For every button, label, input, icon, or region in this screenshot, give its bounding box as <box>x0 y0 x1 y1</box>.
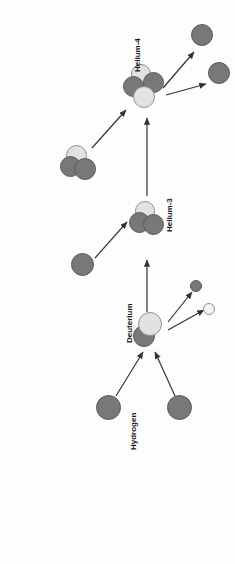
proton-icon <box>74 158 96 180</box>
arrow-hydrogen-mid-to-helium3 <box>95 222 127 258</box>
emitted-proton-2-icon <box>208 62 230 84</box>
nucleus-hydrogen-right <box>167 395 192 420</box>
fusion-diagram: Helium-4 Helium-3 Deuterium Hydrogen Pos… <box>0 0 235 564</box>
arrow-helium4-to-proton-1 <box>163 52 194 88</box>
legend: Positron Neutrino Proton (Hydrogen) Neut… <box>0 330 80 564</box>
arrow-hydrogen-right-to-deuterium <box>155 352 175 396</box>
neutron-icon <box>138 312 162 336</box>
emitted-proton-1-icon <box>191 24 213 46</box>
nucleus-hydrogen-left <box>96 395 121 420</box>
label-helium3: Helium-3 <box>166 198 174 232</box>
label-hydrogen: Hydrogen <box>130 413 138 450</box>
emitted-positron-icon <box>190 280 202 292</box>
neutron-icon <box>133 86 155 108</box>
arrow-deuterium-to-neutrino <box>168 310 204 330</box>
arrow-helium4-to-proton-2 <box>166 84 206 95</box>
arrow-deuterium-to-positron <box>168 292 192 322</box>
proton-icon <box>143 214 164 235</box>
label-helium4: Helium-4 <box>134 38 142 72</box>
arrow-helium3-left-to-helium4 <box>92 110 126 148</box>
nucleus-hydrogen-mid <box>71 253 94 276</box>
arrow-hydrogen-left-to-deuterium <box>116 352 143 396</box>
emitted-neutrino-icon <box>203 303 215 315</box>
label-deuterium: Deuterium <box>126 303 134 343</box>
